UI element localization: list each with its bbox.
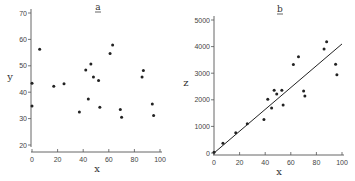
data-point — [297, 55, 300, 58]
panel-title: a — [95, 2, 101, 12]
x-tick-label: 80 — [131, 156, 139, 163]
data-point — [141, 75, 144, 78]
x-tick-label: 40 — [79, 156, 87, 163]
data-point — [120, 116, 123, 119]
y-tick-label: 50 — [19, 62, 27, 69]
data-point — [52, 85, 55, 88]
x-tick-label: 0 — [212, 159, 216, 166]
data-point — [78, 111, 81, 114]
data-point — [63, 82, 66, 85]
y-tick-label: 30 — [19, 115, 27, 122]
y-tick-label: 60 — [19, 36, 27, 43]
data-point — [97, 79, 100, 82]
data-point — [280, 89, 283, 92]
data-point — [98, 106, 101, 109]
data-point — [273, 89, 276, 92]
y-tick-label: 2000 — [194, 96, 210, 103]
data-point — [275, 92, 278, 95]
y-tick-label: 0 — [206, 150, 210, 157]
data-point — [270, 107, 273, 110]
x-tick-label: 60 — [105, 156, 113, 163]
data-point — [262, 118, 265, 121]
data-point — [334, 63, 337, 66]
data-point — [151, 103, 154, 106]
data-point — [234, 131, 237, 134]
data-point — [92, 75, 95, 78]
y-tick-label: 40 — [19, 89, 27, 96]
y-tick-label: 5000 — [194, 17, 210, 24]
data-point — [152, 114, 155, 117]
data-point — [292, 63, 295, 66]
data-point — [31, 82, 34, 85]
data-point — [38, 48, 41, 51]
data-point — [323, 47, 326, 50]
panel-title: b — [277, 4, 283, 14]
data-point — [119, 108, 122, 111]
x-tick-label: 40 — [261, 159, 269, 166]
data-point — [266, 98, 269, 101]
data-point — [325, 40, 328, 43]
y-axis-label: z — [183, 77, 188, 88]
data-point — [84, 69, 87, 72]
x-tick-label: 20 — [236, 159, 244, 166]
x-axis-label: x — [276, 166, 282, 177]
x-tick-label: 100 — [336, 159, 348, 166]
panel-b-scatter: 010002000300040005000020406080100bzx — [183, 4, 348, 177]
data-point — [335, 73, 338, 76]
x-tick-label: 100 — [154, 156, 166, 163]
x-tick-label: 80 — [313, 159, 321, 166]
data-point — [31, 104, 34, 107]
panel-a-scatter: 203040506070020406080100ayx — [6, 2, 166, 174]
data-point — [282, 104, 285, 107]
regression-line — [214, 44, 342, 153]
data-point — [142, 69, 145, 72]
data-point — [303, 95, 306, 98]
data-point — [111, 43, 114, 46]
data-point — [302, 90, 305, 93]
x-tick-label: 0 — [30, 156, 34, 163]
y-axis-label: y — [6, 71, 13, 82]
data-point — [221, 142, 224, 145]
data-point — [246, 122, 249, 125]
y-tick-label: 4000 — [194, 43, 210, 50]
y-tick-label: 3000 — [194, 70, 210, 77]
y-tick-label: 20 — [19, 142, 27, 149]
scatter-figure: 203040506070020406080100ayx 010002000300… — [0, 0, 355, 181]
data-point — [109, 52, 112, 55]
x-tick-label: 60 — [287, 159, 295, 166]
data-point — [213, 151, 216, 154]
data-point — [89, 62, 92, 65]
data-point — [87, 98, 90, 101]
y-tick-label: 1000 — [194, 123, 210, 130]
x-tick-label: 20 — [54, 156, 62, 163]
y-tick-label: 70 — [19, 10, 27, 17]
x-axis-label: x — [94, 163, 100, 174]
